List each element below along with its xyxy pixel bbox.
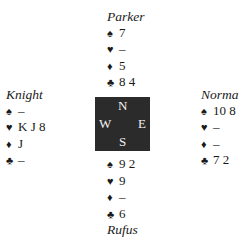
heart-icon: ♥ [201, 120, 213, 136]
south-hearts: 9 [119, 173, 126, 188]
north-diamonds-row: ♦5 [107, 58, 145, 75]
west-clubs-row: ♣– [6, 152, 45, 169]
heart-icon: ♥ [107, 42, 119, 58]
east-hearts-row: ♥– [201, 119, 239, 136]
south-hand: ♠9 2 ♥9 ♦– ♣6 Rufus [107, 156, 138, 238]
south-clubs: 6 [119, 206, 126, 221]
diamond-icon: ♦ [107, 59, 119, 75]
spade-icon: ♠ [107, 26, 119, 42]
player-name-north: Parker [107, 9, 145, 25]
east-hearts: – [213, 119, 220, 134]
compass-south: S [119, 134, 126, 150]
diamond-icon: ♦ [201, 137, 213, 153]
east-diamonds: – [213, 136, 220, 151]
north-hearts: – [119, 41, 126, 56]
club-icon: ♣ [107, 75, 119, 91]
north-hearts-row: ♥– [107, 41, 145, 58]
east-spades: 10 8 [213, 103, 236, 118]
north-spades-row: ♠7 [107, 25, 145, 42]
club-icon: ♣ [201, 153, 213, 169]
west-diamonds-row: ♦J [6, 136, 45, 153]
west-hearts: K J 8 [18, 119, 45, 134]
club-icon: ♣ [107, 207, 119, 223]
heart-icon: ♥ [6, 120, 18, 136]
heart-icon: ♥ [107, 174, 119, 190]
west-clubs: – [18, 152, 25, 167]
east-clubs-row: ♣7 2 [201, 152, 239, 169]
spade-icon: ♠ [107, 157, 119, 173]
west-diamonds: J [18, 136, 23, 151]
south-clubs-row: ♣6 [107, 206, 138, 223]
diamond-icon: ♦ [6, 137, 18, 153]
spade-icon: ♠ [201, 104, 213, 120]
west-spades-row: ♠– [6, 103, 45, 120]
compass-west: W [99, 116, 111, 132]
compass-box: N W E S [95, 97, 150, 151]
south-spades: 9 2 [119, 156, 135, 171]
north-hand: Parker ♠7 ♥– ♦5 ♣8 4 [107, 9, 145, 91]
compass-north: N [118, 98, 127, 114]
compass-east: E [138, 116, 146, 132]
south-diamonds: – [119, 189, 126, 204]
player-name-west: Knight [6, 87, 45, 103]
east-diamonds-row: ♦– [201, 136, 239, 153]
player-name-south: Rufus [107, 222, 138, 238]
north-clubs-row: ♣8 4 [107, 74, 145, 91]
west-hearts-row: ♥K J 8 [6, 119, 45, 136]
north-diamonds: 5 [119, 58, 126, 73]
east-hand: Norma ♠10 8 ♥– ♦– ♣7 2 [201, 87, 239, 169]
north-clubs: 8 4 [119, 74, 135, 89]
east-clubs: 7 2 [213, 152, 229, 167]
west-spades: – [18, 103, 25, 118]
south-hearts-row: ♥9 [107, 173, 138, 190]
diamond-icon: ♦ [107, 190, 119, 206]
north-spades: 7 [119, 25, 126, 40]
west-hand: Knight ♠– ♥K J 8 ♦J ♣– [6, 87, 45, 169]
south-spades-row: ♠9 2 [107, 156, 138, 173]
east-spades-row: ♠10 8 [201, 103, 239, 120]
player-name-east: Norma [201, 87, 239, 103]
spade-icon: ♠ [6, 104, 18, 120]
club-icon: ♣ [6, 153, 18, 169]
south-diamonds-row: ♦– [107, 189, 138, 206]
